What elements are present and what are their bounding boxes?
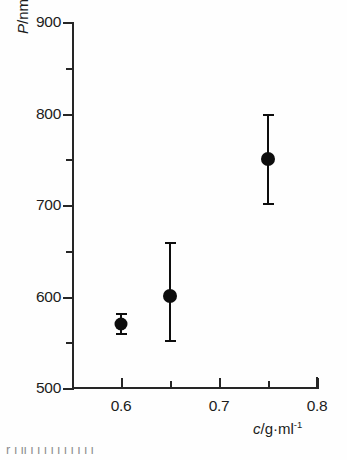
marker-dot <box>115 317 128 330</box>
y-tick-major <box>63 297 74 299</box>
x-axis-title: c/g·ml-1 <box>253 420 302 437</box>
error-bar-cap-upper <box>116 313 127 315</box>
y-tick-minor <box>66 68 74 70</box>
x-tick-label: 0.7 <box>209 397 230 415</box>
x-tick-label: 0.8 <box>307 397 328 415</box>
y-tick-label: 800 <box>36 105 61 123</box>
y-axis-title: P/nm <box>14 0 31 34</box>
y-tick-label: 700 <box>36 196 61 214</box>
y-tick-minor <box>66 251 74 253</box>
x-tick-major <box>317 378 319 389</box>
data-point-2 <box>163 22 177 388</box>
data-point-1 <box>114 22 128 388</box>
marker-dot <box>261 152 275 166</box>
x-tick-minor <box>72 381 74 389</box>
caption-fragment-text: r l li i l l l l l l l l l <box>6 447 94 457</box>
y-tick-label: 500 <box>36 379 61 397</box>
y-tick-label: 900 <box>36 13 61 31</box>
x-axis-line <box>72 387 318 389</box>
y-tick-major <box>63 114 74 116</box>
error-bar-cap-lower <box>165 340 176 342</box>
figure-canvas: P/nm 500600700800900 0.60.70.8 c/g·ml-1 … <box>0 0 347 460</box>
error-bar-cap-upper <box>263 114 274 116</box>
error-bar-cap-lower <box>116 333 127 335</box>
y-tick-label: 600 <box>36 288 61 306</box>
page-caption-fragment: r l li i l l l l l l l l l <box>0 447 347 460</box>
x-tick-label: 0.6 <box>111 397 132 415</box>
y-tick-major <box>63 22 74 24</box>
marker-dot <box>163 289 177 303</box>
y-tick-major <box>63 205 74 207</box>
plot-area: 500600700800900 0.60.70.8 <box>72 22 317 388</box>
x-tick-major <box>219 378 221 389</box>
y-tick-minor <box>66 159 74 161</box>
error-bar-cap-upper <box>165 242 176 244</box>
error-bar-cap-lower <box>263 203 274 205</box>
y-tick-minor <box>66 342 74 344</box>
data-point-3 <box>261 22 275 388</box>
